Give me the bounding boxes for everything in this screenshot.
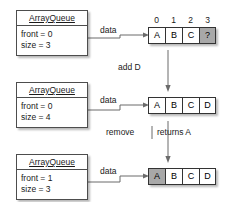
diagram-canvas: ArrayQueue front = 0 size = 3 data 0 1 2… bbox=[0, 0, 230, 202]
field-front: front = 0 bbox=[21, 29, 87, 40]
object-class-name: ArrayQueue bbox=[29, 13, 75, 23]
array-index-1: 1 bbox=[165, 15, 182, 25]
array-index-row: 0 1 2 3 bbox=[148, 15, 216, 25]
transition-label-add: add D bbox=[118, 62, 141, 72]
object-box-after-add[interactable]: ArrayQueue front = 0 size = 4 bbox=[16, 82, 88, 128]
link-label-data-1: data bbox=[100, 25, 117, 35]
array-cell-1[interactable]: B bbox=[165, 97, 182, 114]
transition-label-returns: returns A bbox=[157, 127, 191, 137]
object-class-title: ArrayQueue bbox=[17, 11, 87, 26]
object-box-after-remove[interactable]: ArrayQueue front = 1 size = 3 bbox=[16, 154, 88, 200]
array-cell-2[interactable]: C bbox=[182, 168, 199, 185]
array-cell-0[interactable]: A bbox=[148, 168, 165, 185]
object-box-initial[interactable]: ArrayQueue front = 0 size = 3 bbox=[16, 10, 88, 56]
link-arrow-1 bbox=[88, 35, 145, 38]
object-fields: front = 0 size = 4 bbox=[17, 98, 87, 127]
link-label-data-2: data bbox=[100, 95, 117, 105]
object-class-title: ArrayQueue bbox=[17, 155, 87, 170]
field-front: front = 1 bbox=[21, 173, 87, 184]
field-front: front = 0 bbox=[21, 101, 87, 112]
object-class-name: ArrayQueue bbox=[29, 157, 75, 167]
transition-label-remove: remove bbox=[106, 127, 134, 137]
array-cell-0[interactable]: A bbox=[148, 27, 165, 44]
field-size: size = 4 bbox=[21, 112, 87, 123]
array-index-3: 3 bbox=[199, 15, 216, 25]
link-label-data-3: data bbox=[100, 166, 117, 176]
object-class-title: ArrayQueue bbox=[17, 83, 87, 98]
array-cell-1[interactable]: B bbox=[165, 27, 182, 44]
object-fields: front = 0 size = 3 bbox=[17, 26, 87, 55]
array-cell-2[interactable]: C bbox=[182, 97, 199, 114]
object-class-name: ArrayQueue bbox=[29, 85, 75, 95]
array-index-2: 2 bbox=[182, 15, 199, 25]
array-index-0: 0 bbox=[148, 15, 165, 25]
link-arrow-3 bbox=[88, 176, 145, 182]
array-initial[interactable]: A B C ? bbox=[148, 27, 216, 44]
array-cell-3[interactable]: ? bbox=[199, 27, 216, 44]
array-cell-3[interactable]: D bbox=[199, 168, 216, 185]
array-after-remove[interactable]: A B C D bbox=[148, 168, 216, 185]
field-size: size = 3 bbox=[21, 184, 87, 195]
array-cell-0[interactable]: A bbox=[148, 97, 165, 114]
link-arrow-2 bbox=[88, 105, 145, 110]
array-after-add[interactable]: A B C D bbox=[148, 97, 216, 114]
array-cell-1[interactable]: B bbox=[165, 168, 182, 185]
object-fields: front = 1 size = 3 bbox=[17, 170, 87, 199]
array-cell-3[interactable]: D bbox=[199, 97, 216, 114]
field-size: size = 3 bbox=[21, 40, 87, 51]
transition-arrowhead-add bbox=[165, 85, 170, 92]
transition-arrowhead-remove bbox=[165, 156, 170, 163]
array-cell-2[interactable]: C bbox=[182, 27, 199, 44]
